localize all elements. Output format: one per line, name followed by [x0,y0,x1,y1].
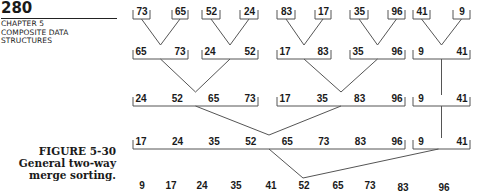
final-merge-connector [303,149,439,178]
run-value: 9 [418,46,424,57]
sorted-output-value: 65 [332,180,344,191]
run-value: 35 [354,6,366,17]
run-value: 96 [391,93,403,104]
sorted-output-value: 35 [230,180,242,191]
run-value: 35 [352,46,364,57]
merge-connector [359,19,378,45]
run-value: 24 [135,93,147,104]
run-value: 41 [456,136,468,147]
run-value: 96 [391,46,403,57]
run-value: 65 [175,6,187,17]
merge-connector [304,59,341,92]
sorted-output-value: 96 [438,182,450,192]
run-value: 73 [318,136,330,147]
sorted-output-value: 17 [165,180,177,191]
run-value: 96 [391,136,403,147]
merge-connector [161,59,196,92]
run-value: 83 [317,46,329,57]
run-value: 73 [174,46,186,57]
run-value: 41 [456,93,468,104]
merge-connector [142,19,161,45]
run-value: 83 [354,93,366,104]
merge-connector [196,106,270,135]
run-value: 73 [244,93,256,104]
merge-sort-diagram: 7365522483173596419657324521783359694124… [0,0,481,192]
sorted-output-value: 83 [397,182,409,192]
merge-connector [422,19,442,45]
run-value: 83 [281,6,293,17]
final-merge-connector [269,149,303,178]
run-value: 9 [418,136,424,147]
run-value: 35 [317,93,329,104]
run-value: 73 [136,6,148,17]
sorted-output-value: 52 [298,180,310,191]
sorted-output-value: 24 [196,180,208,191]
run-value: 24 [204,46,216,57]
merge-connector [161,19,181,45]
merge-connector [304,19,323,45]
sorted-output-value: 41 [265,180,277,191]
merge-connector [286,19,304,45]
merge-connector [211,19,230,45]
run-value: 9 [418,93,424,104]
run-value: 35 [209,136,221,147]
merge-connector [196,59,231,92]
run-value: 24 [244,6,256,17]
run-value: 17 [279,46,291,57]
run-value: 41 [416,6,428,17]
run-value: 17 [135,136,147,147]
merge-connector [378,19,397,45]
run-value: 41 [456,46,468,57]
run-value: 52 [172,93,184,104]
run-value: 52 [244,46,256,57]
run-value: 9 [459,6,465,17]
run-value: 52 [206,6,218,17]
run-value: 17 [279,93,291,104]
merge-connector [230,19,249,45]
run-value: 83 [355,136,367,147]
run-value: 17 [318,6,330,17]
sorted-output-value: 9 [139,180,145,191]
run-value: 24 [172,136,184,147]
merge-connector [442,19,462,45]
run-value: 52 [245,136,257,147]
run-value: 65 [282,136,294,147]
run-value: 96 [391,6,403,17]
merge-connector [269,106,341,135]
run-value: 65 [135,46,147,57]
run-value: 65 [208,93,220,104]
sorted-output-value: 73 [364,180,376,191]
merge-connector [341,59,378,92]
merge-tree-svg: 7365522483173596419657324521783359694124… [0,0,481,192]
